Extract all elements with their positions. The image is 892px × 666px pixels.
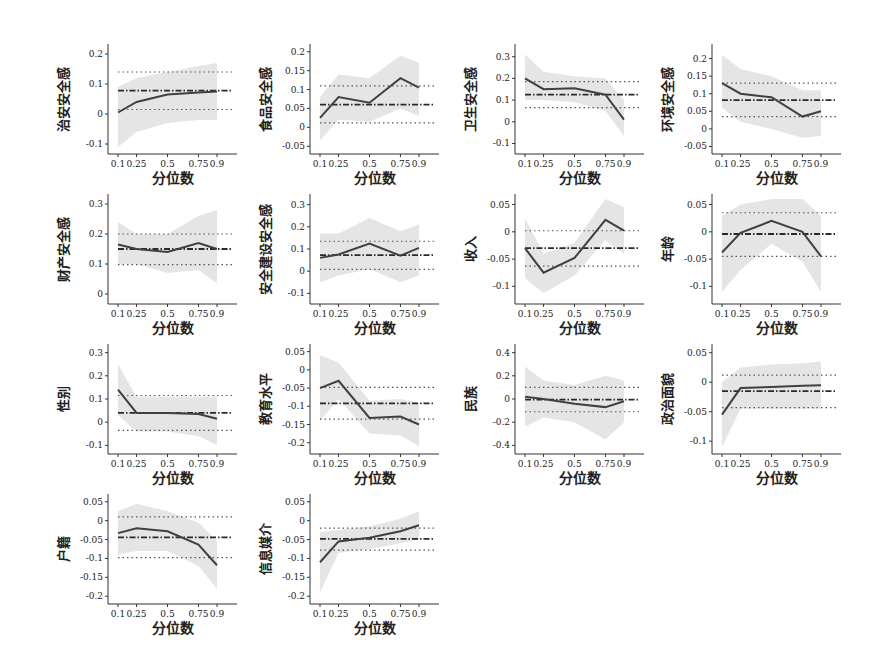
x-axis-label: 分位数 <box>756 170 799 186</box>
x-tick-label: 0.25 <box>534 459 554 469</box>
y-tick-label: 0.1 <box>89 79 103 89</box>
qr-confidence-band <box>320 56 419 141</box>
y-tick-label: -0.2 <box>493 417 510 427</box>
x-tick-label: 0.9 <box>210 609 225 619</box>
y-axis-label: 安全建设安全感 <box>258 204 273 295</box>
x-axis-label: 分位数 <box>354 170 397 186</box>
panel-5: 00.10.20.30.10.250.50.750.9分位数财产安全感 <box>56 194 237 336</box>
y-tick-label: -0.1 <box>690 281 707 291</box>
x-axis-label: 分位数 <box>559 170 602 186</box>
x-tick-label: 0.9 <box>814 309 829 319</box>
y-tick-label: 0.05 <box>490 200 510 210</box>
y-axis-label: 户籍 <box>56 536 71 562</box>
y-tick-label: -0.05 <box>282 141 305 151</box>
y-tick-label: -0.1 <box>86 139 103 149</box>
x-tick-label: 0.25 <box>127 459 147 469</box>
panel-3: -0.100.10.20.30.10.250.50.750.9分位数卫生安全感 <box>463 44 644 186</box>
x-tick-label: 0.5 <box>160 309 175 319</box>
panel-4: -0.0500.050.10.150.20.10.250.50.750.9分位数… <box>660 44 841 186</box>
y-tick-label: -0.4 <box>493 440 511 450</box>
x-axis-label: 分位数 <box>354 470 397 486</box>
y-axis-label: 教育水平 <box>258 373 273 426</box>
x-tick-label: 0.5 <box>362 459 377 469</box>
panel-12: -0.1-0.0500.050.10.250.50.750.9分位数政治面貌 <box>660 344 841 486</box>
x-tick-label: 0.9 <box>814 459 829 469</box>
x-axis-label: 分位数 <box>152 320 195 336</box>
x-tick-label: 0.1 <box>518 459 532 469</box>
qr-confidence-band <box>118 364 217 445</box>
y-axis-label: 食品安全感 <box>258 67 273 132</box>
qr-confidence-band <box>320 218 419 282</box>
y-tick-label: 0 <box>504 117 510 127</box>
y-axis-label: 年龄 <box>660 235 675 262</box>
x-tick-label: 0.75 <box>390 309 410 319</box>
panel-2: -0.0500.050.10.150.20.10.250.50.750.9分位数… <box>258 44 439 186</box>
y-axis-label: 财产安全感 <box>56 217 71 282</box>
x-tick-label: 0.75 <box>792 459 812 469</box>
y-tick-label: 0 <box>97 417 103 427</box>
x-tick-label: 0.5 <box>764 309 779 319</box>
y-tick-label: -0.05 <box>684 407 707 417</box>
x-axis-label: 分位数 <box>152 620 195 636</box>
y-tick-label: 0.2 <box>89 229 103 239</box>
x-axis-label: 分位数 <box>354 620 397 636</box>
y-tick-label: 0 <box>701 377 707 387</box>
x-tick-label: 0.9 <box>814 159 829 169</box>
y-tick-label: -0.2 <box>86 591 103 601</box>
y-tick-label: 0.2 <box>291 47 305 57</box>
x-axis-label: 分位数 <box>354 320 397 336</box>
y-tick-label: 0.2 <box>291 222 305 232</box>
y-tick-label: 0.2 <box>496 371 510 381</box>
quantile-regression-figure: -0.100.10.20.10.250.50.750.9分位数治安安全感-0.0… <box>0 0 892 666</box>
x-tick-label: 0.9 <box>412 609 427 619</box>
x-tick-label: 0.1 <box>715 309 729 319</box>
y-tick-label: 0 <box>504 227 510 237</box>
x-tick-label: 0.75 <box>595 309 615 319</box>
qr-confidence-band <box>722 362 821 447</box>
y-tick-label: -0.1 <box>288 553 305 563</box>
y-tick-label: 0 <box>701 227 707 237</box>
x-tick-label: 0.75 <box>595 459 615 469</box>
x-tick-label: 0.1 <box>111 459 125 469</box>
panel-8: -0.1-0.0500.050.10.250.50.750.9分位数年龄 <box>660 194 841 336</box>
x-tick-label: 0.25 <box>127 309 147 319</box>
x-tick-label: 0.5 <box>764 159 779 169</box>
x-tick-label: 0.25 <box>534 309 554 319</box>
x-tick-label: 0.1 <box>518 159 532 169</box>
x-tick-label: 0.5 <box>160 159 175 169</box>
y-tick-label: 0 <box>97 516 103 526</box>
y-tick-label: -0.1 <box>288 401 305 411</box>
x-tick-label: 0.5 <box>362 159 377 169</box>
y-tick-label: 0.2 <box>89 49 103 59</box>
y-tick-label: -0.05 <box>684 254 707 264</box>
y-tick-label: 0.1 <box>291 244 305 254</box>
y-tick-label: -0.1 <box>288 288 305 298</box>
x-tick-label: 0.75 <box>595 159 615 169</box>
y-tick-label: 0.05 <box>687 106 707 116</box>
x-tick-label: 0.75 <box>390 609 410 619</box>
x-tick-label: 0.1 <box>313 609 327 619</box>
x-tick-label: 0.9 <box>412 159 427 169</box>
x-tick-label: 0.5 <box>567 309 582 319</box>
qr-confidence-band <box>320 355 419 446</box>
x-tick-label: 0.25 <box>731 459 751 469</box>
x-tick-label: 0.1 <box>313 159 327 169</box>
y-tick-label: -0.15 <box>282 420 305 430</box>
y-tick-label: 0 <box>299 365 305 375</box>
y-tick-label: -0.1 <box>86 440 103 450</box>
y-tick-label: 0.05 <box>687 200 707 210</box>
x-tick-label: 0.75 <box>188 609 208 619</box>
y-axis-label: 卫生安全感 <box>463 67 478 132</box>
x-tick-label: 0.5 <box>567 159 582 169</box>
panel-7: -0.1-0.0500.050.10.250.50.750.9分位数收入 <box>463 194 644 336</box>
y-tick-label: 0.1 <box>496 95 510 105</box>
y-tick-label: -0.15 <box>80 572 103 582</box>
y-tick-label: -0.15 <box>282 572 305 582</box>
y-tick-label: 0.1 <box>89 394 103 404</box>
y-tick-label: 0 <box>299 122 305 132</box>
x-tick-label: 0.1 <box>111 309 125 319</box>
x-tick-label: 0.75 <box>188 309 208 319</box>
panel-13: -0.2-0.15-0.1-0.0500.050.10.250.50.750.9… <box>56 494 237 636</box>
y-tick-label: -0.05 <box>684 141 707 151</box>
y-tick-label: 0 <box>504 394 510 404</box>
